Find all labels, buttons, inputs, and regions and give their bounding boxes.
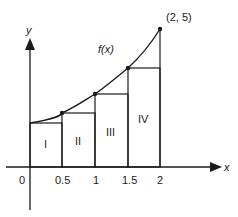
curve-point-1-5: [126, 66, 130, 70]
rectangle-label-iv: IV: [138, 113, 149, 125]
rectangles: [30, 29, 160, 167]
x-axis-arrow-icon: [210, 162, 222, 172]
curve-label: f(x): [98, 43, 114, 55]
riemann-sum-diagram: y x f(x) (2, 5) 0 0.5 1 1.5 2 I II III I…: [0, 0, 238, 217]
curve-point-2: [158, 27, 162, 31]
x-tick-1-5: 1.5: [122, 174, 137, 186]
origin-label: 0: [19, 174, 25, 186]
x-axis-label: x: [223, 161, 230, 173]
rectangle-label-iii: III: [106, 126, 115, 138]
curve-point-1: [93, 92, 97, 96]
rectangle-label-ii: II: [75, 135, 81, 147]
rectangle-label-i: I: [44, 138, 47, 150]
x-tick-0-5: 0.5: [55, 174, 70, 186]
x-tick-1: 1: [93, 174, 99, 186]
y-axis-arrow-icon: [25, 38, 35, 50]
y-axis-label: y: [25, 24, 33, 36]
x-tick-2: 2: [157, 174, 163, 186]
endpoint-label: (2, 5): [166, 11, 192, 23]
curve-point-0-5: [60, 111, 64, 115]
